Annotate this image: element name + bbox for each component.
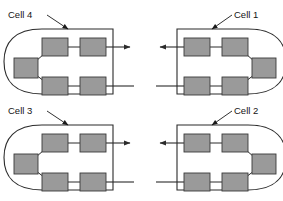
cell-label-cell-2: Cell 2 (234, 105, 258, 116)
unit-top-right[interactable] (80, 134, 106, 152)
cell-2-leader (212, 111, 232, 125)
cell-group-cell-1[interactable] (156, 29, 283, 95)
cell-3-leader (47, 111, 68, 125)
unit-bottom-left[interactable] (42, 77, 68, 95)
unit-top-right[interactable] (80, 38, 106, 56)
unit-bottom-right[interactable] (80, 173, 106, 191)
unit-bottom-right[interactable] (80, 77, 106, 95)
unit-bottom-left[interactable] (42, 173, 68, 191)
cell-group-cell-2[interactable] (156, 125, 283, 191)
cell-label-cell-4: Cell 4 (8, 9, 32, 20)
unit-bottom-right[interactable] (222, 173, 248, 191)
cell-label-cell-3: Cell 3 (8, 105, 32, 116)
cell-layout-diagram: Cell 4 Cell 1 (0, 0, 283, 201)
unit-side[interactable] (14, 154, 38, 174)
unit-top-right[interactable] (222, 38, 248, 56)
unit-top-left[interactable] (42, 38, 68, 56)
unit-top-left[interactable] (184, 38, 210, 56)
cell-group-cell-3[interactable] (4, 125, 134, 191)
unit-top-right[interactable] (222, 134, 248, 152)
unit-side[interactable] (252, 154, 276, 174)
diagram-canvas: Cell 4 Cell 1 (0, 0, 283, 201)
cell-label-cell-1: Cell 1 (234, 9, 258, 20)
cell-group-cell-4[interactable] (4, 29, 134, 95)
cell-4-leader (47, 15, 68, 29)
unit-top-left[interactable] (184, 134, 210, 152)
unit-bottom-left[interactable] (184, 77, 210, 95)
unit-side[interactable] (14, 58, 38, 78)
unit-bottom-left[interactable] (184, 173, 210, 191)
unit-top-left[interactable] (42, 134, 68, 152)
unit-bottom-right[interactable] (222, 77, 248, 95)
cell-1-leader (212, 15, 232, 29)
unit-side[interactable] (252, 58, 276, 78)
